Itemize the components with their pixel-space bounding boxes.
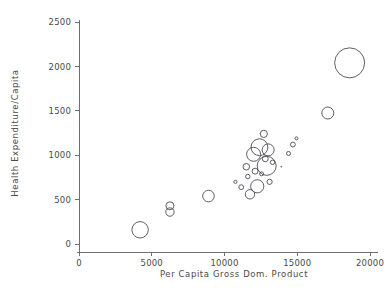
data-bubble: [246, 174, 250, 178]
x-tick-label: 15000: [283, 258, 311, 268]
data-bubble: [247, 147, 261, 161]
y-tick-label: 1000: [49, 150, 71, 160]
data-bubble: [166, 208, 174, 216]
y-tick-label: 500: [54, 195, 71, 205]
x-tick-label: 10000: [210, 258, 238, 268]
data-bubble: [267, 179, 272, 184]
x-tick-label: 0: [76, 258, 82, 268]
data-bubble: [251, 180, 264, 193]
y-axis: 05001000150020002500: [49, 17, 79, 249]
bubble-chart: 05001000150020002500 0500010000150002000…: [0, 0, 390, 293]
y-tick-label: 2000: [49, 62, 71, 72]
data-bubble: [287, 151, 291, 155]
data-bubble: [270, 160, 274, 164]
plot-area: 05001000150020002500 0500010000150002000…: [0, 0, 390, 293]
x-axis-title: Per Capita Gross Dom. Product: [160, 269, 308, 279]
data-bubble: [295, 137, 298, 140]
x-tick-label: 20000: [356, 258, 384, 268]
data-bubble: [132, 222, 148, 238]
data-bubble: [260, 130, 267, 137]
x-axis: 05000100001500020000: [76, 244, 384, 268]
data-bubble: [243, 163, 250, 170]
data-bubble: [335, 48, 365, 78]
y-tick-label: 0: [65, 239, 71, 249]
data-bubble: [290, 142, 295, 147]
x-tick-label: 5000: [141, 258, 163, 268]
data-bubbles: [132, 48, 365, 238]
data-point: [280, 166, 282, 168]
data-bubble: [322, 107, 334, 119]
data-bubble: [262, 144, 274, 156]
data-bubble: [252, 168, 258, 174]
data-bubble: [257, 156, 276, 175]
data-bubble: [239, 185, 244, 190]
y-tick-label: 1500: [49, 106, 71, 116]
data-bubble: [203, 190, 215, 202]
data-bubble: [234, 180, 237, 183]
y-tick-label: 2500: [49, 17, 71, 27]
y-axis-title: Health Expenditure/Capita: [10, 69, 20, 196]
